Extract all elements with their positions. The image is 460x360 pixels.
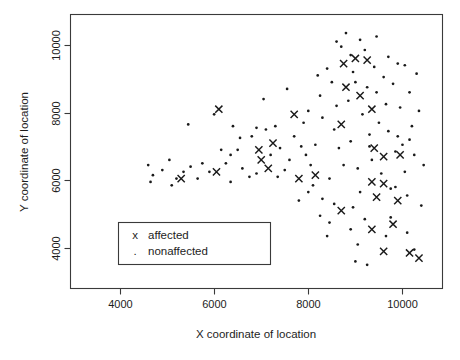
data-point-nonaffected	[229, 154, 232, 157]
data-point-nonaffected	[316, 74, 319, 77]
data-point-nonaffected	[326, 235, 329, 238]
data-point-nonaffected	[373, 66, 376, 69]
data-point-nonaffected	[328, 177, 331, 180]
x-tick-label-10000: 10000	[387, 298, 418, 310]
y-tick-label-6000: 6000	[50, 168, 62, 192]
data-point-nonaffected	[385, 103, 388, 106]
data-point-nonaffected	[328, 221, 331, 224]
data-point-nonaffected	[399, 106, 402, 109]
data-point-nonaffected	[356, 167, 359, 170]
legend-marker-affected: x	[132, 229, 138, 241]
data-point-nonaffected	[387, 55, 390, 58]
data-point-nonaffected	[401, 143, 404, 146]
y-axis-title: Y coordinate of location	[18, 92, 30, 212]
data-point-nonaffected	[220, 148, 223, 151]
data-point-nonaffected	[298, 199, 301, 202]
data-point-nonaffected	[196, 177, 199, 180]
data-point-nonaffected	[371, 159, 374, 162]
data-point-nonaffected	[352, 206, 355, 209]
data-point-nonaffected	[335, 104, 338, 107]
data-point-nonaffected	[422, 164, 425, 167]
data-point-nonaffected	[403, 170, 406, 173]
data-point-nonaffected	[161, 169, 164, 172]
legend-label-affected: affected	[148, 229, 189, 241]
data-point-nonaffected	[279, 147, 282, 150]
y-tick-label-8000: 8000	[50, 101, 62, 125]
data-point-nonaffected	[201, 162, 204, 165]
data-point-nonaffected	[349, 140, 352, 143]
data-point-nonaffected	[175, 177, 178, 180]
data-point-nonaffected	[330, 81, 333, 84]
data-point-nonaffected	[288, 159, 291, 162]
data-point-nonaffected	[335, 40, 338, 43]
data-point-nonaffected	[415, 72, 418, 75]
data-point-nonaffected	[283, 169, 286, 172]
data-point-nonaffected	[408, 91, 411, 94]
data-point-nonaffected	[352, 71, 355, 74]
legend-label-nonaffected: nonaffected	[148, 245, 208, 257]
data-point-nonaffected	[229, 181, 232, 184]
data-point-nonaffected	[356, 243, 359, 246]
data-point-nonaffected	[408, 138, 411, 141]
data-point-nonaffected	[359, 191, 362, 194]
data-point-nonaffected	[345, 32, 348, 35]
x-axis-title: X coordinate of location	[196, 328, 316, 340]
data-point-nonaffected	[406, 194, 409, 197]
data-point-nonaffected	[359, 39, 362, 42]
data-point-nonaffected	[354, 260, 357, 263]
data-point-nonaffected	[392, 82, 395, 85]
data-point-nonaffected	[269, 154, 272, 157]
data-point-nonaffected	[170, 184, 173, 187]
data-point-nonaffected	[236, 148, 239, 151]
data-point-nonaffected	[394, 186, 397, 189]
data-point-nonaffected	[248, 176, 251, 179]
data-point-nonaffected	[241, 167, 244, 170]
data-point-nonaffected	[149, 181, 152, 184]
legend-marker-nonaffected: .	[133, 245, 136, 257]
data-point-nonaffected	[232, 125, 235, 128]
data-point-nonaffected	[418, 110, 421, 113]
data-point-nonaffected	[347, 99, 350, 102]
data-point-nonaffected	[152, 174, 155, 177]
data-point-nonaffected	[333, 128, 336, 131]
data-point-nonaffected	[286, 88, 289, 91]
data-point-nonaffected	[411, 125, 414, 128]
data-point-nonaffected	[403, 64, 406, 67]
x-tick-label-4000: 4000	[108, 298, 132, 310]
data-point-nonaffected	[305, 154, 308, 157]
data-point-nonaffected	[255, 172, 258, 175]
data-point-nonaffected	[387, 130, 390, 133]
data-point-nonaffected	[319, 214, 322, 217]
data-point-nonaffected	[342, 164, 345, 167]
legend: x affected . nonaffected	[119, 223, 271, 265]
data-point-nonaffected	[168, 159, 171, 162]
data-point-nonaffected	[363, 49, 366, 52]
data-point-nonaffected	[262, 98, 265, 101]
data-point-nonaffected	[250, 135, 253, 138]
data-point-nonaffected	[340, 45, 343, 48]
data-point-nonaffected	[413, 154, 416, 157]
data-point-nonaffected	[182, 170, 185, 173]
data-point-nonaffected	[300, 145, 303, 148]
data-point-nonaffected	[187, 123, 190, 126]
data-point-nonaffected	[239, 137, 242, 140]
data-point-nonaffected	[420, 204, 423, 207]
data-point-nonaffected	[368, 145, 371, 148]
data-point-nonaffected	[380, 172, 383, 175]
data-point-nonaffected	[147, 164, 150, 167]
data-point-nonaffected	[321, 198, 324, 201]
data-point-nonaffected	[225, 162, 228, 165]
data-point-nonaffected	[385, 235, 388, 238]
data-point-nonaffected	[363, 218, 366, 221]
y-tick-label-4000: 4000	[50, 236, 62, 260]
data-point-nonaffected	[375, 91, 378, 94]
data-point-nonaffected	[333, 203, 336, 206]
data-point-nonaffected	[354, 81, 357, 84]
data-point-nonaffected	[307, 110, 310, 113]
legend-box	[119, 223, 271, 265]
data-point-nonaffected	[366, 263, 369, 266]
data-point-nonaffected	[302, 121, 305, 124]
data-point-nonaffected	[389, 187, 392, 190]
data-point-nonaffected	[276, 176, 279, 179]
data-point-nonaffected	[309, 164, 312, 167]
